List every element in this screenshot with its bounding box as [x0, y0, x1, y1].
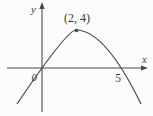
y-axis-arrow-icon: [39, 2, 44, 9]
parabola-curve: [17, 30, 141, 104]
parabola-figure: y x 0 5 (2, 4): [0, 0, 153, 116]
vertex-point: [75, 29, 79, 33]
x-axis-arrow-icon: [141, 65, 148, 70]
x-intercept-label: 5: [115, 72, 121, 84]
graph-canvas: y x 0 5 (2, 4): [0, 0, 153, 116]
x-axis-label: x: [141, 53, 147, 65]
y-axis-label: y: [30, 3, 36, 15]
vertex-label: (2, 4): [64, 11, 90, 25]
origin-label: 0: [32, 71, 38, 83]
